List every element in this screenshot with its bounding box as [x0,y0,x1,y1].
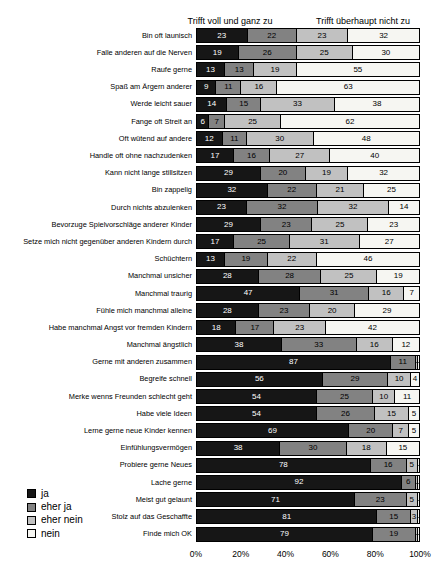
bar-segment-nein: 15 [387,441,420,456]
bar-track: 13192246 [196,252,420,267]
chart-row: Bin zappelig32222125 [0,182,421,199]
bar-segment-ja: 13 [196,62,225,77]
legend-swatch-nein [27,529,36,538]
segment-value: 23 [280,307,289,315]
bar-segment-ja: 28 [196,303,259,318]
segment-value: 32 [227,186,236,194]
segment-value: 7 [215,118,219,126]
bar-segment-eher-ja: 13 [225,62,254,77]
segment-value: 54 [252,410,261,418]
bar-segment-eher-ja: 6 [402,475,415,490]
segment-value: 15 [239,100,248,108]
segment-value: 16 [384,461,393,469]
bar-segment-nein: 55 [297,62,420,77]
bar-segment-nein: 32 [348,166,420,181]
x-axis-tick: 80% [367,549,384,559]
category-label: Fange oft Streit an [0,118,196,126]
segment-value: 13 [206,255,215,263]
legend-item: nein [27,527,83,540]
segment-value: 25 [344,272,353,280]
segment-value: 11 [399,358,407,366]
bar-segment-eher-nein: 25 [321,269,377,284]
segment-value: 22 [287,255,296,263]
bar-segment-eher-ja: 26 [317,406,375,421]
scale-header-right: Trifft überhaupt nicht zu [316,16,410,26]
bar-segment-eher-ja: 15 [377,509,411,524]
bar-track: 19262530 [196,45,420,60]
segment-value: 32 [379,169,388,177]
bar-segment-ja: 23 [196,28,248,43]
segment-value: 19 [322,169,331,177]
bar-segment-ja: 17 [196,148,234,163]
segment-value: 25 [320,49,329,57]
segment-value: 7 [410,289,414,297]
bar-segment-ja: 38 [196,337,282,352]
segment-value: 56 [255,375,264,383]
x-axis-tick: 40% [277,549,294,559]
bar-segment-eher-ja: 19 [373,527,416,542]
bar-track: 17253127 [196,234,420,249]
bar-segment-nein: 1 [418,509,420,524]
bar-segment-eher-ja: 16 [371,458,407,473]
segment-value: 15 [398,444,407,452]
segment-value: 27 [385,238,394,246]
bar-segment-eher-nein: 31 [290,234,359,249]
category-label: Falle anderen auf die Nerven [0,49,196,57]
chart-row: Merke wenns Freunden schlecht geht542510… [0,388,421,405]
chart-row: Werde leicht sauer14153338 [0,96,421,113]
category-label: Habe manchmal Angst vor fremden Kindern [0,324,196,332]
segment-value: 25 [336,221,345,229]
segment-value: 10 [395,375,404,383]
category-label: Lache gerne [0,479,196,487]
bar-segment-nein: 63 [277,80,420,95]
legend-item: eher nein [27,514,83,527]
category-label: Raufe gerne [0,66,196,74]
bar-segment-ja: 47 [196,286,300,301]
bar-segment-eher-ja: 11 [216,80,241,95]
x-axis-tick: 60% [322,549,339,559]
category-label: Oft wütend auf andere [0,135,196,143]
segment-value: 5 [412,427,416,435]
segment-value: 12 [401,341,410,349]
bar-segment-nein: 7 [404,286,420,301]
bar-segment-ja: 23 [196,200,247,215]
chart-row: Gerne mit anderen zusammen871111 [0,354,421,371]
segment-value: 19 [213,49,222,57]
bar-segment-ja: 13 [196,252,225,267]
segment-value: 11 [230,135,238,143]
segment-value: 32 [278,203,287,211]
bar-segment-eher-ja: 31 [300,286,369,301]
category-label: Begreife schnell [0,375,196,383]
chart-row: Fühle mich manchmal alleine28232029 [0,302,421,319]
bar-segment-eher-ja: 22 [248,28,297,43]
bar-segment-eher-nein: 5 [407,458,418,473]
x-axis-tick: 20% [232,549,249,559]
segment-value: 19 [389,530,398,538]
chart-row: Fange oft Streit an672562 [0,113,421,130]
segment-value: 62 [346,118,355,126]
bar-segment-eher-nein: 5 [407,492,418,507]
segment-value: 17 [211,152,220,160]
legend-item: eher ja [27,500,83,513]
segment-value: 1 [418,482,420,484]
legend-swatch-eher-ja [27,503,36,512]
category-label: Habe viele Ideen [0,410,196,418]
bar-segment-ja: 92 [196,475,402,490]
bar-segment-nein: 29 [355,303,420,318]
category-label: Werde leicht sauer [0,100,196,108]
bar-segment-ja: 29 [196,217,261,232]
segment-value: 25 [248,118,257,126]
bar-segment-eher-ja: 11 [391,355,416,370]
bar-segment-nein: 14 [389,200,420,215]
bar-track: 17162740 [196,148,420,163]
bar-track: 9111663 [196,80,420,95]
bar-track: 692075 [196,423,420,438]
segment-value: 23 [295,324,304,332]
bar-track: 4731167 [196,286,420,301]
segment-value: 16 [382,289,391,297]
bar-segment-nein: 46 [317,252,420,267]
segment-value: 23 [376,496,385,504]
bar-segment-ja: 78 [196,458,371,473]
category-label: Gerne mit anderen zusammen [0,358,196,366]
bar-track: 54251011 [196,389,420,404]
